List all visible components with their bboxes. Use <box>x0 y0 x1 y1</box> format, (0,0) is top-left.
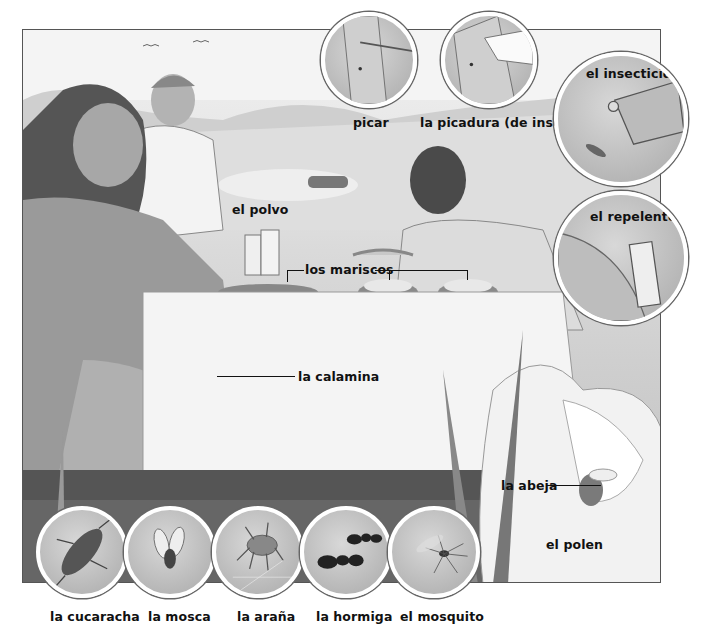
inset-picadura <box>441 12 537 108</box>
fly-icon <box>128 510 212 594</box>
label-mosca: la mosca <box>148 609 211 624</box>
label-picar: picar <box>353 115 389 130</box>
leader-mariscos-mid-v <box>389 270 390 280</box>
insect-circle-cockroach <box>36 506 128 598</box>
inset-insecticida: el insecticida <box>554 52 688 186</box>
spider-icon <box>216 510 300 594</box>
label-repelente: el repelente <box>590 209 677 224</box>
leader-mariscos-left-h <box>287 270 304 271</box>
label-calamina: la calamina <box>298 369 379 384</box>
insect-circle-mosquito <box>388 506 480 598</box>
leader-mariscos-left-v <box>287 270 288 282</box>
insect-circle-spider <box>212 506 304 598</box>
bite-mark-icon <box>445 16 533 104</box>
inset-picar <box>321 12 417 108</box>
ant-icon <box>304 510 388 594</box>
label-hormiga: la hormiga <box>316 609 392 624</box>
label-arana: la araña <box>237 609 295 624</box>
inset-repelente: el repelente <box>554 191 688 325</box>
label-insecticida: el insecticida <box>586 66 680 81</box>
mosquito-icon <box>392 510 476 594</box>
insect-circle-ant <box>300 506 392 598</box>
arm-bite-icon <box>325 16 413 104</box>
label-polvo: el polvo <box>232 202 288 217</box>
label-cucaracha: la cucaracha <box>50 609 140 624</box>
cockroach-icon <box>40 510 124 594</box>
leader-abeja <box>546 485 601 486</box>
label-mosquito: el mosquito <box>400 609 484 624</box>
leader-mariscos-right-v <box>467 270 468 280</box>
label-polen: el polen <box>546 537 603 552</box>
leader-calamina <box>217 376 295 377</box>
insect-circle-fly <box>124 506 216 598</box>
